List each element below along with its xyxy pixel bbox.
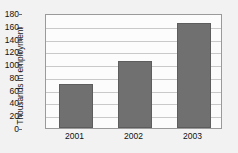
x-axis-labels: 200120022003 bbox=[45, 132, 222, 148]
bar bbox=[59, 84, 93, 128]
plot-area bbox=[45, 14, 222, 129]
y-tick-mark bbox=[19, 78, 22, 79]
y-tick-mark bbox=[19, 52, 22, 53]
y-tick-label: 100 bbox=[0, 61, 19, 70]
y-tick-label: 40 bbox=[0, 99, 19, 108]
y-tick-label: 0 bbox=[0, 125, 19, 134]
y-tick-label: 140 bbox=[0, 35, 19, 44]
bar bbox=[118, 61, 152, 128]
chart-screenshot: Thousands in employment 0204060801001201… bbox=[0, 0, 238, 153]
x-tick-label: 2003 bbox=[183, 132, 202, 141]
y-tick-mark bbox=[19, 27, 22, 28]
y-tick-mark bbox=[19, 14, 22, 15]
y-tick-label: 60 bbox=[0, 86, 19, 95]
y-tick-mark bbox=[19, 103, 22, 104]
y-tick-mark bbox=[19, 65, 22, 66]
bar-chart-figure: Thousands in employment 0204060801001201… bbox=[0, 0, 238, 153]
y-tick-mark bbox=[19, 129, 22, 130]
y-tick-label: 180 bbox=[0, 10, 19, 19]
bars-layer bbox=[46, 15, 221, 128]
y-tick-mark bbox=[19, 91, 22, 92]
y-tick-label: 120 bbox=[0, 48, 19, 57]
y-tick-mark bbox=[19, 116, 22, 117]
y-tick-mark bbox=[19, 40, 22, 41]
y-tick-label: 20 bbox=[0, 112, 19, 121]
x-tick-label: 2002 bbox=[124, 132, 143, 141]
bar bbox=[177, 23, 211, 128]
x-tick-label: 2001 bbox=[65, 132, 84, 141]
y-axis-ticks: 020406080100120140160180 bbox=[0, 0, 45, 153]
y-tick-label: 80 bbox=[0, 74, 19, 83]
y-tick-label: 160 bbox=[0, 23, 19, 32]
